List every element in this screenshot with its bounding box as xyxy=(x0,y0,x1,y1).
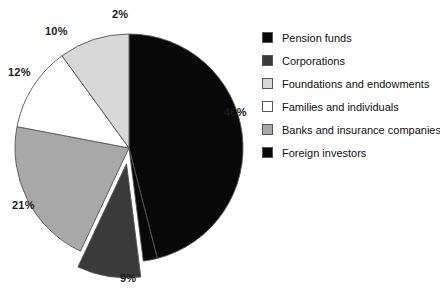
legend-item-label: Foundations and endowments xyxy=(282,78,429,90)
legend-swatch-icon xyxy=(262,101,273,112)
pie-value-label: 46% xyxy=(224,106,247,118)
pie-value-label: 12% xyxy=(8,66,31,78)
legend-swatch-icon xyxy=(262,55,273,66)
legend-swatch-icon xyxy=(262,147,273,158)
pie-chart-svg xyxy=(0,0,258,296)
legend-item-label: Pension funds xyxy=(282,32,352,44)
legend-item[interactable]: Foreign investors xyxy=(262,141,440,164)
legend-swatch-icon xyxy=(262,78,273,89)
legend-item-label: Banks and insurance companies xyxy=(282,124,440,136)
legend-item-label: Families and individuals xyxy=(282,101,399,113)
pie-slice-group xyxy=(15,34,243,278)
chart-legend: Pension fundsCorporationsFoundations and… xyxy=(262,26,440,164)
legend-swatch-icon xyxy=(262,32,273,43)
legend-item[interactable]: Banks and insurance companies xyxy=(262,118,440,141)
legend-item-label: Corporations xyxy=(282,55,345,67)
legend-item[interactable]: Corporations xyxy=(262,49,440,72)
pie-value-label: 2% xyxy=(112,8,128,20)
pie-value-label: 10% xyxy=(45,25,68,37)
pie-chart-area: 46%2%9%21%12%10% xyxy=(0,0,258,296)
legend-item-label: Foreign investors xyxy=(282,147,366,159)
pie-value-label: 21% xyxy=(12,199,35,211)
legend-item[interactable]: Families and individuals xyxy=(262,95,440,118)
legend-item[interactable]: Foundations and endowments xyxy=(262,72,440,95)
pie-value-label: 9% xyxy=(120,272,136,284)
legend-item[interactable]: Pension funds xyxy=(262,26,440,49)
legend-swatch-icon xyxy=(262,124,273,135)
pie-chart-page: 46%2%9%21%12%10% Pension fundsCorporatio… xyxy=(0,0,440,296)
